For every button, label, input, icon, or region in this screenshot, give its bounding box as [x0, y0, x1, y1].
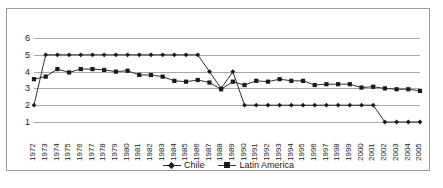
data-point-square	[149, 73, 153, 77]
data-point-square	[359, 85, 363, 89]
x-axis-tick-label: 1988	[216, 143, 224, 161]
data-point-diamond	[266, 103, 271, 108]
data-point-square	[348, 82, 352, 86]
data-point-square	[172, 79, 176, 83]
y-axis-tick-label: 3	[25, 84, 30, 93]
data-point-square	[114, 70, 118, 74]
x-axis-tick-label: 1997	[322, 143, 330, 161]
x-axis-tick-label: 1972	[29, 143, 37, 161]
x-axis-tick-label: 1990	[240, 143, 248, 161]
data-point-diamond	[55, 52, 60, 57]
x-axis-tick-label: 1982	[146, 143, 154, 161]
y-axis-tick-label: 6	[25, 34, 30, 43]
data-point-diamond	[184, 52, 189, 57]
data-point-square	[242, 83, 246, 87]
x-axis-tick-label: 1973	[41, 143, 49, 161]
legend-label: Chile	[184, 161, 205, 170]
data-point-square	[32, 77, 36, 81]
chart-figure: 123456 197219731974197519761977197819791…	[0, 0, 443, 188]
data-point-square	[254, 79, 258, 83]
data-point-diamond	[43, 52, 48, 57]
data-point-square	[301, 79, 305, 83]
diamond-marker-icon	[163, 161, 181, 170]
data-point-square	[289, 79, 293, 83]
data-point-diamond	[254, 103, 259, 108]
data-point-diamond	[32, 103, 37, 108]
data-point-square	[383, 86, 387, 90]
x-axis-tick-label: 1998	[333, 143, 341, 161]
chart-legend: Chile Latin America	[7, 161, 443, 170]
x-axis-tick-label: 1996	[310, 143, 318, 161]
x-axis-tick-label: 1974	[53, 143, 61, 161]
data-point-diamond	[277, 103, 282, 108]
x-axis-tick-label: 1994	[287, 143, 295, 161]
data-point-square	[102, 68, 106, 72]
data-point-square	[371, 85, 375, 89]
data-point-square	[90, 67, 94, 71]
data-point-square	[196, 78, 200, 82]
x-axis-tick-label: 1992	[263, 143, 271, 161]
plot-area: 123456	[34, 38, 420, 122]
x-axis-tick-label: 2000	[357, 143, 365, 161]
data-point-square	[184, 80, 188, 84]
x-axis-tick-label: 2001	[368, 143, 376, 161]
y-axis-tick-label: 5	[25, 50, 30, 59]
data-point-diamond	[160, 52, 165, 57]
data-point-diamond	[149, 52, 154, 57]
x-axis-tick-label: 2002	[380, 143, 388, 161]
x-axis-tick-label: 1986	[193, 143, 201, 161]
x-axis-tick-label: 1984	[170, 143, 178, 161]
data-point-square	[231, 80, 235, 84]
legend-entry-latin-america: Latin America	[218, 161, 294, 170]
data-point-square	[44, 75, 48, 79]
data-point-diamond	[102, 52, 107, 57]
data-point-square	[324, 82, 328, 86]
gridline	[34, 122, 420, 123]
data-point-square	[418, 89, 422, 93]
data-point-diamond	[125, 52, 130, 57]
data-point-square	[55, 67, 59, 71]
data-point-diamond	[406, 120, 411, 125]
data-point-diamond	[172, 52, 177, 57]
data-point-diamond	[359, 103, 364, 108]
x-axis-tick-label: 1999	[345, 143, 353, 161]
data-point-diamond	[113, 52, 118, 57]
x-axis-tick-label: 1989	[228, 143, 236, 161]
x-axis-tick-label: 2004	[404, 143, 412, 161]
x-axis-tick-label: 1991	[251, 143, 259, 161]
data-point-diamond	[289, 103, 294, 108]
legend-entry-chile: Chile	[163, 161, 205, 170]
data-point-diamond	[336, 103, 341, 108]
data-point-square	[79, 67, 83, 71]
x-axis-tick-label: 1995	[298, 143, 306, 161]
x-axis-tick-label: 1981	[134, 143, 142, 161]
series-lines	[34, 38, 420, 122]
y-axis-tick-label: 2	[25, 101, 30, 110]
data-point-square	[67, 70, 71, 74]
x-axis-tick-label: 1980	[123, 143, 131, 161]
square-marker-icon	[218, 161, 236, 170]
data-point-square	[125, 69, 129, 73]
data-point-square	[313, 83, 317, 87]
data-point-diamond	[137, 52, 142, 57]
data-point-square	[266, 80, 270, 84]
data-point-square	[336, 82, 340, 86]
data-point-square	[219, 87, 223, 91]
data-point-diamond	[324, 103, 329, 108]
x-axis-tick-label: 1976	[76, 143, 84, 161]
data-point-diamond	[242, 103, 247, 108]
x-axis-tick-label: 2003	[392, 143, 400, 161]
x-axis-tick-label: 1979	[111, 143, 119, 161]
x-axis-tick-label: 1985	[181, 143, 189, 161]
data-point-diamond	[312, 103, 317, 108]
data-point-square	[406, 87, 410, 91]
data-point-square	[395, 87, 399, 91]
x-axis-tick-label: 1978	[99, 143, 107, 161]
legend-label: Latin America	[239, 161, 294, 170]
data-point-diamond	[394, 120, 399, 125]
x-axis-tick-label: 1983	[158, 143, 166, 161]
x-axis-tick-labels: 1972197319741975197619771978197919801981…	[34, 125, 420, 161]
data-point-square	[161, 75, 165, 79]
x-axis-tick-label: 1977	[88, 143, 96, 161]
x-axis-tick-label: 1987	[205, 143, 213, 161]
